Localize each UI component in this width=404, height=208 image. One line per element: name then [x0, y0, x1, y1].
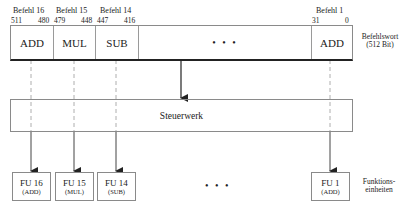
- fu-16-op: (ADD): [13, 188, 50, 196]
- bit-high-15: 479: [54, 17, 65, 25]
- bit-high-1: 31: [312, 17, 320, 25]
- slot-op-16: ADD: [11, 26, 54, 59]
- fu-15-name: FU 15: [56, 178, 93, 188]
- bit-low-15: 448: [81, 17, 92, 25]
- fu-15-box: FU 15 (MUL): [55, 172, 94, 201]
- slot-name-befehl-15: Befehl 15: [56, 6, 87, 15]
- bit-low-16: 480: [38, 17, 49, 25]
- instruction-word-box: ADD MUL SUB • • • ADD: [10, 25, 353, 61]
- bit-low-1: 0: [345, 17, 349, 25]
- slot-name-befehl-16: Befehl 16: [13, 6, 44, 15]
- slot-op-15: MUL: [54, 26, 96, 59]
- fu-14-op: (SUB): [98, 188, 135, 196]
- fu-1-box: FU 1 (ADD): [311, 172, 350, 201]
- instruction-word-label-line2: (512 Bit): [357, 41, 403, 49]
- functional-units-label: Funktions- einheiten: [357, 178, 401, 194]
- fu-14-name: FU 14: [98, 178, 135, 188]
- bit-high-14: 447: [97, 17, 108, 25]
- fu-15-op: (MUL): [56, 188, 93, 196]
- slot-ellipsis: • • •: [139, 26, 311, 59]
- slot-name-befehl-14: Befehl 14: [100, 6, 131, 15]
- slot-op-14: SUB: [96, 26, 139, 59]
- instruction-word-label: Befehlswort (512 Bit): [357, 33, 403, 49]
- bit-high-16: 511: [11, 17, 22, 25]
- bit-low-14: 416: [124, 17, 135, 25]
- functional-units-label-line2: einheiten: [357, 186, 401, 194]
- control-unit-box: Steuerwerk: [10, 99, 353, 132]
- fu-16-name: FU 16: [13, 178, 50, 188]
- control-unit-label: Steuerwerk: [158, 111, 205, 121]
- fu-1-op: (ADD): [312, 188, 349, 196]
- slot-name-befehl-1: Befehl 1: [316, 6, 343, 15]
- fu-14-box: FU 14 (SUB): [97, 172, 136, 201]
- fu-ellipsis: • • •: [205, 180, 231, 191]
- fu-16-box: FU 16 (ADD): [12, 172, 51, 201]
- slot-op-1: ADD: [311, 26, 352, 59]
- fu-1-name: FU 1: [312, 178, 349, 188]
